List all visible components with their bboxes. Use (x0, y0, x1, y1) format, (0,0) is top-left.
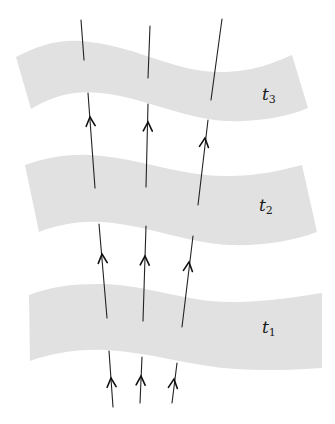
slice-label-t2: t2 (259, 197, 273, 216)
label-subscript: 3 (269, 93, 276, 106)
label-subscript: 2 (266, 204, 273, 217)
label-base: t (262, 317, 269, 337)
slice-label-t1: t1 (262, 319, 276, 338)
time-slice-t2 (25, 155, 317, 245)
time-slice-t1 (29, 284, 322, 370)
arrowhead-up-icon (199, 138, 208, 147)
time-slices (16, 41, 322, 370)
label-base: t (259, 195, 266, 215)
time-slice-t3 (16, 41, 308, 121)
label-base: t (262, 84, 269, 104)
worldline-segment (140, 357, 142, 403)
label-subscript: 1 (269, 326, 276, 339)
arrowhead-up-icon (183, 262, 192, 271)
diagram-canvas (0, 0, 335, 424)
slice-label-t3: t3 (262, 86, 276, 105)
arrowhead-up-icon (168, 379, 177, 388)
spacetime-diagram: t3 t2 t1 (0, 0, 335, 424)
